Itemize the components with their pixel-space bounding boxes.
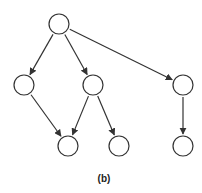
node-right [173,75,193,95]
edge-middle-to-bottom-1 [73,96,89,135]
node-root [49,14,69,34]
node-bottom-2 [109,136,129,156]
edge-root-to-left [30,34,53,74]
figure-caption: (b) [0,173,202,184]
node-left [14,75,34,95]
node-bottom-3 [173,136,193,156]
node-middle [83,75,103,95]
edge-root-to-right [70,29,172,79]
node-bottom-1 [58,136,78,156]
edges [30,29,183,136]
edge-middle-to-bottom-2 [98,96,115,135]
tree-diagram [0,0,202,193]
edge-root-to-middle [65,34,87,74]
edge-left-to-bottom-1 [31,95,61,137]
nodes [14,14,193,156]
